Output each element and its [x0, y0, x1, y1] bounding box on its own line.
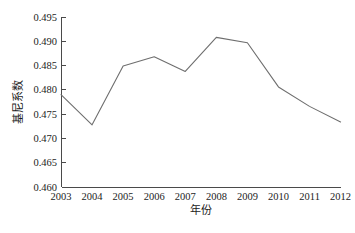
x-tick-label: 2010 — [268, 191, 289, 202]
y-tick-label: 0.480 — [33, 84, 57, 95]
x-tick-label: 2003 — [51, 191, 72, 202]
y-axis-title: 基尼系数 — [12, 80, 25, 124]
x-axis-tick-labels: 2003 2004 2005 2006 2007 2008 2009 2010 … — [51, 191, 352, 202]
y-tick-label: 0.465 — [33, 157, 57, 168]
x-tick-label: 2012 — [330, 191, 351, 202]
x-tick-label: 2004 — [82, 191, 104, 202]
x-tick-label: 2008 — [206, 191, 227, 202]
y-axis-tick-labels: 0.495 0.490 0.485 0.480 0.475 0.470 0.46… — [33, 12, 57, 193]
y-tick-label: 0.475 — [33, 109, 57, 120]
x-tick-label: 2006 — [144, 191, 165, 202]
x-tick-label: 2007 — [175, 191, 196, 202]
x-tick-label: 2009 — [237, 191, 258, 202]
y-tick-label: 0.495 — [33, 12, 57, 23]
x-tick-label: 2011 — [299, 191, 320, 202]
line-chart: 0.495 0.490 0.485 0.480 0.475 0.470 0.46… — [0, 0, 355, 233]
data-series-line — [61, 37, 341, 124]
x-axis-title: 年份 — [190, 203, 212, 217]
y-tick-label: 0.485 — [33, 60, 57, 71]
y-tick-label: 0.470 — [33, 133, 57, 144]
y-tick-label: 0.490 — [33, 36, 57, 47]
chart-figure: 0.495 0.490 0.485 0.480 0.475 0.470 0.46… — [0, 0, 355, 233]
y-axis-ticks — [62, 17, 67, 187]
x-tick-label: 2005 — [113, 191, 134, 202]
